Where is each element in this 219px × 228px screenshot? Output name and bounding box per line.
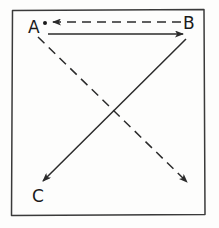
dashed-arrow-a-to-lower-right (38, 37, 187, 182)
point-dot-a (43, 21, 47, 25)
diagram-canvas: A B C (0, 0, 219, 228)
node-label-b: B (183, 15, 195, 32)
solid-arrow-b-to-c (43, 39, 186, 181)
node-label-a: A (28, 19, 40, 36)
node-label-c: C (32, 188, 44, 205)
